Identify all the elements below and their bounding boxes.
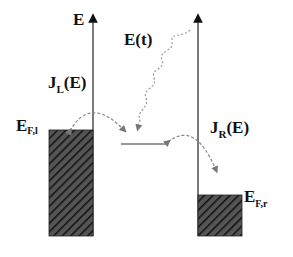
left-lead — [49, 18, 93, 236]
left-fermi-label: EF,l — [16, 116, 38, 136]
left-tunneling-arrow — [70, 113, 124, 131]
field-label: E(t) — [124, 30, 152, 49]
right-tunneling-arrow — [168, 135, 216, 170]
left-fermi-sea — [49, 130, 93, 236]
right-fermi-label: EF,r — [244, 187, 268, 209]
tunneling-diagram: E E(t) JL(E) JR(E) EF,l EF,r — [0, 0, 293, 257]
energy-axis-label: E — [73, 10, 84, 29]
diagram-canvas: E E(t) JL(E) JR(E) EF,l EF,r — [0, 0, 293, 257]
left-current-label: JL(E) — [48, 73, 87, 95]
right-current-label: JR(E) — [210, 118, 249, 140]
right-fermi-sea — [198, 195, 242, 236]
